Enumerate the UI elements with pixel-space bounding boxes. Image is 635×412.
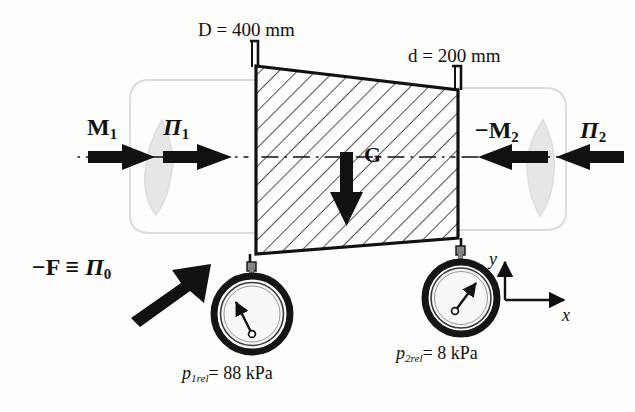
label-m1: M1	[87, 115, 117, 142]
label-pi2-base: Π	[580, 117, 599, 143]
outlet-flange	[452, 66, 461, 90]
label-reaction-f: −F	[32, 254, 59, 280]
label-m2-sub: 2	[511, 129, 518, 145]
label-pi1-base: Π	[163, 114, 182, 140]
gauge-2-label: p2rel= 8 kPa	[396, 344, 478, 364]
gauge-2-sub: 2rel	[405, 352, 423, 364]
axis-label-x: x	[562, 306, 570, 324]
gauge-2[interactable]	[425, 246, 497, 334]
label-m2-sign: −	[475, 117, 489, 143]
inlet-dimension-label: D = 400 mm	[198, 20, 295, 39]
gauge-2-symbol: p	[396, 343, 405, 363]
coordinate-axes	[505, 262, 564, 300]
label-m2: −M2	[475, 118, 519, 145]
gauge-1-unit: kPa	[246, 363, 273, 383]
gauge-1-eq: =	[209, 363, 224, 383]
fan-blade-ghost-right	[527, 120, 554, 216]
label-m2-base: M	[489, 117, 512, 143]
gauge-2-unit: kPa	[451, 343, 478, 363]
arrow-reaction-force	[131, 264, 211, 327]
gauge-1-symbol: p	[182, 363, 191, 383]
label-pi2: Π2	[580, 118, 606, 145]
diagram-svg	[0, 0, 635, 412]
figure-canvas: D = 400 mm d = 200 mm M1 Π1 −M2 Π2 G −F …	[0, 0, 635, 412]
gauge-2-value: 8	[437, 343, 446, 363]
axis-label-y: y	[489, 250, 497, 268]
label-reaction-equiv: ≡	[65, 254, 79, 280]
label-reaction-base: Π	[85, 254, 104, 280]
label-reaction-sub: 0	[104, 266, 111, 282]
label-reaction-force: −F ≡ Π0	[32, 255, 111, 282]
inlet-flange	[250, 41, 258, 67]
label-pi1: Π1	[163, 115, 189, 142]
gauge-1-sub: 1rel	[191, 372, 209, 384]
label-gravity: G	[364, 144, 381, 166]
label-pi1-sub: 1	[182, 126, 189, 142]
gauge-2-eq: =	[423, 343, 438, 363]
gauge-1-label: p1rel= 88 kPa	[182, 364, 273, 384]
label-m1-base: M	[87, 114, 110, 140]
gauge-1-value: 88	[223, 363, 241, 383]
outlet-dimension-label: d = 200 mm	[408, 46, 501, 65]
label-pi2-sub: 2	[599, 129, 606, 145]
control-volume-region	[256, 66, 458, 254]
gauge-1[interactable]	[214, 262, 290, 352]
label-m1-sub: 1	[110, 126, 117, 142]
